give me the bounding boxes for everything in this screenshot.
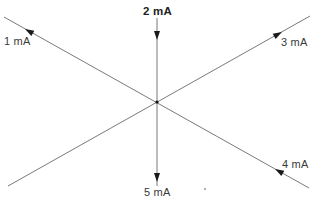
- junction-node: [155, 100, 158, 103]
- arrow-5ma-icon: [154, 173, 160, 182]
- label-5ma: 5 mA: [144, 187, 170, 198]
- stray-mark: [204, 188, 206, 190]
- label-3ma: 3 mA: [281, 37, 307, 48]
- current-junction-diagram: [0, 0, 321, 200]
- label-1ma: 1 mA: [4, 36, 30, 47]
- arrow-2ma-icon: [154, 31, 160, 40]
- wire-3ma-diagonal: [8, 16, 310, 186]
- label-2ma: 2 mA: [143, 6, 172, 18]
- label-4ma: 4 mA: [282, 159, 308, 170]
